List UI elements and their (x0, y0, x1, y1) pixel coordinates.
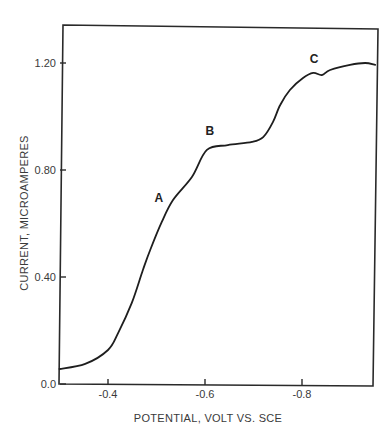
y-axis-title: CURRENT, MICROAMPERES (18, 135, 30, 290)
y-tick-label: 0.0 (41, 378, 56, 390)
x-tick-label: -0.4 (99, 388, 118, 400)
plot-frame (59, 25, 378, 386)
x-axis-title: POTENTIAL, VOLT VS. SCE (134, 412, 282, 424)
y-tick-label: 0.80 (35, 164, 56, 176)
x-tick-label: -0.8 (293, 388, 312, 400)
y-tick-label: 0.40 (35, 271, 56, 283)
annotation-a: A (155, 191, 164, 205)
annotation-c: C (310, 52, 319, 66)
data-line (60, 63, 376, 369)
chart: 0.00.400.801.20 -0.4-0.6-0.8 ABC POTENTI… (0, 0, 392, 442)
y-tick-label: 1.20 (35, 57, 56, 69)
x-tick-label: -0.6 (196, 388, 215, 400)
annotation-b: B (206, 124, 215, 138)
x-axis-ticks: -0.4-0.6-0.8 (99, 379, 312, 400)
point-annotations: ABC (155, 52, 319, 205)
